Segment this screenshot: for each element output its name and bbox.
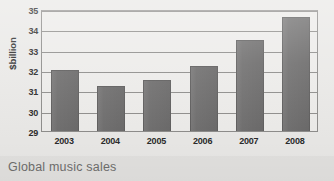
bar-slot-2003 bbox=[42, 11, 88, 131]
chart-caption: Global music sales bbox=[8, 160, 117, 174]
bar-2004 bbox=[97, 86, 125, 131]
x-tick-2007: 2007 bbox=[239, 136, 258, 146]
y-axis-tick-labels: 29303132333435 bbox=[17, 10, 38, 132]
bar-slot-2007 bbox=[227, 11, 273, 131]
x-tick-2006: 2006 bbox=[193, 136, 212, 146]
bar-series bbox=[42, 11, 317, 131]
x-tick-2005: 2005 bbox=[147, 136, 166, 146]
y-tick-29: 29 bbox=[17, 128, 38, 138]
y-tick-34: 34 bbox=[17, 26, 38, 36]
bar-slot-2006 bbox=[181, 11, 227, 131]
bar-2005 bbox=[143, 80, 171, 131]
bar-slot-2005 bbox=[134, 11, 180, 131]
bar-2008 bbox=[282, 17, 310, 131]
caption-band: Global music sales bbox=[0, 156, 334, 181]
bar-2003 bbox=[51, 70, 79, 131]
y-axis-label: $billion bbox=[7, 22, 18, 86]
x-tick-2004: 2004 bbox=[101, 136, 120, 146]
y-tick-33: 33 bbox=[17, 47, 38, 57]
bar-chart: $billion 29303132333435 2003200420052006… bbox=[0, 0, 334, 156]
x-tick-2008: 2008 bbox=[285, 136, 304, 146]
bar-slot-2008 bbox=[273, 11, 319, 131]
plot-area bbox=[41, 10, 318, 132]
bar-2007 bbox=[236, 40, 264, 132]
y-tick-31: 31 bbox=[17, 87, 38, 97]
y-tick-30: 30 bbox=[17, 108, 38, 118]
y-tick-32: 32 bbox=[17, 67, 38, 77]
x-axis-tick-labels: 200320042005200620072008 bbox=[41, 136, 318, 150]
y-tick-35: 35 bbox=[17, 6, 38, 16]
bar-slot-2004 bbox=[88, 11, 134, 131]
x-tick-2003: 2003 bbox=[54, 136, 73, 146]
bar-2006 bbox=[190, 66, 218, 131]
figure: $billion 29303132333435 2003200420052006… bbox=[0, 0, 334, 181]
